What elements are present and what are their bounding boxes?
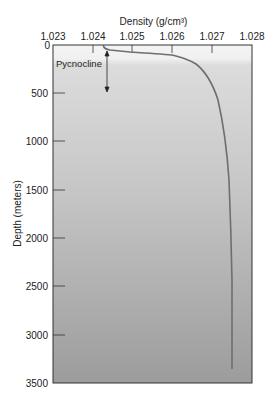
pycnocline-label: Pycnocline xyxy=(56,58,102,69)
plot-area xyxy=(0,0,273,403)
